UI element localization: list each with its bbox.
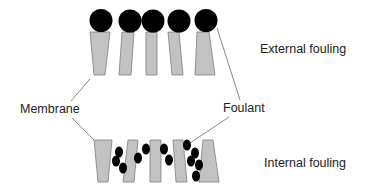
internal-foulant-particle	[134, 153, 142, 164]
internal-foulant-particle	[160, 144, 168, 155]
foulant-label: Foulant	[223, 101, 265, 115]
internal-foulant-particle	[192, 171, 200, 182]
membrane-leader-upper	[71, 79, 90, 101]
fouling-diagram: External fouling Internal fouling Membra…	[0, 0, 365, 192]
external-fouling-label: External fouling	[260, 42, 346, 56]
membrane-leader-lower	[72, 118, 94, 140]
internal-membrane-segment-3	[150, 140, 161, 182]
internal-foulant-particle	[112, 156, 120, 167]
internal-membrane-segment-5	[199, 140, 219, 182]
external-membrane-segment-2	[119, 32, 134, 75]
external-foulant-particle-2	[119, 10, 142, 33]
external-foulant-particle-3	[142, 10, 165, 33]
external-membrane	[90, 32, 215, 75]
internal-fouling-label: Internal fouling	[264, 156, 346, 170]
internal-foulant-particle	[195, 160, 203, 171]
external-foulant	[90, 9, 218, 33]
external-membrane-segment-3	[146, 32, 157, 75]
foulant-leader-lower	[190, 117, 229, 143]
external-foulant-particle-5	[195, 9, 218, 32]
external-membrane-segment-4	[168, 32, 183, 75]
internal-foulant-particle	[183, 140, 191, 151]
internal-foulant-particle	[187, 156, 195, 167]
internal-membrane-segment-1	[94, 140, 112, 182]
external-membrane-segment-1	[90, 32, 110, 75]
internal-foulant-particle	[142, 144, 150, 155]
external-membrane-segment-5	[195, 32, 215, 75]
external-foulant-particle-1	[90, 9, 113, 32]
external-foulant-particle-4	[168, 10, 191, 33]
membrane-label: Membrane	[20, 102, 80, 116]
internal-foulant-particle	[119, 163, 127, 174]
internal-foulant-particle	[165, 155, 173, 166]
foulant-leader-upper	[217, 28, 240, 100]
